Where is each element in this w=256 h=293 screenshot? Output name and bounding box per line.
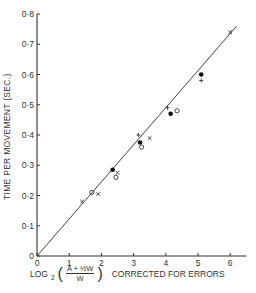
filled-circle-marker	[168, 112, 173, 117]
plus-marker	[165, 106, 169, 110]
open-circle-marker	[175, 109, 179, 113]
open-circle-marker	[140, 145, 144, 149]
y-tick-label: 0·6	[22, 70, 35, 80]
x-label-subscript: 2	[51, 274, 55, 281]
x-label-suffix: CORRECTED FOR ERRORS	[112, 269, 225, 279]
y-tick-label: 0	[29, 251, 34, 261]
plus-marker	[199, 79, 203, 83]
plus-marker	[136, 133, 140, 137]
cross-marker	[148, 136, 152, 140]
cross-marker	[80, 200, 84, 204]
y-tick-label: 0·4	[22, 130, 35, 140]
close-paren: )	[97, 266, 102, 282]
y-tick-label: 0·8	[22, 9, 35, 19]
y-tick-label: 0·2	[22, 191, 35, 201]
x-label-log: LOG	[30, 269, 48, 279]
x-label-fraction: A + ½W W	[66, 264, 94, 283]
chart-area: 00·10·20·30·40·50·60·70·80123456 TIME PE…	[0, 0, 256, 293]
scatter-plot: 00·10·20·30·40·50·60·70·80123456	[0, 0, 256, 293]
filled-circle-marker	[138, 140, 143, 145]
x-label-denominator: W	[77, 274, 84, 283]
y-tick-label: 0·1	[22, 221, 35, 231]
x-axis-label: LOG2 ( A + ½W W ) CORRECTED FOR ERRORS	[30, 264, 225, 283]
y-tick-label: 0·3	[22, 160, 35, 170]
filled-circle-marker	[110, 167, 115, 172]
x-label-numerator: A + ½W	[66, 264, 94, 274]
y-axis-label: TIME PER MOVEMENT (SEC.)	[2, 73, 12, 200]
filled-circle-marker	[199, 72, 204, 77]
open-circle-marker	[114, 175, 118, 179]
x-tick-label: 6	[228, 258, 233, 268]
open-paren: (	[58, 266, 63, 282]
cross-marker	[96, 192, 100, 196]
fit-line	[37, 26, 237, 256]
cross-marker	[116, 171, 120, 175]
y-tick-label: 0·5	[22, 100, 35, 110]
y-tick-label: 0·7	[22, 39, 35, 49]
